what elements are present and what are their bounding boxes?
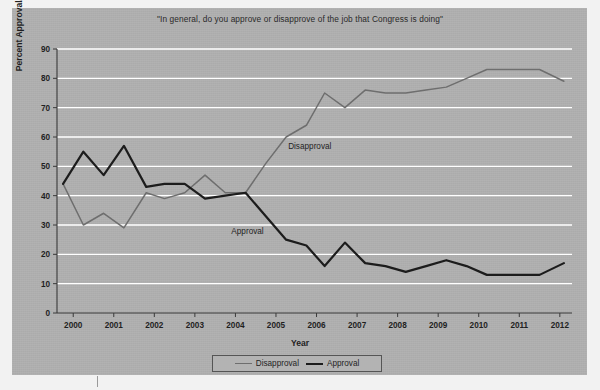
svg-text:2002: 2002 [145,321,164,330]
svg-text:2003: 2003 [186,321,205,330]
svg-text:2007: 2007 [348,321,367,330]
svg-text:2009: 2009 [429,321,448,330]
legend-item-approval: Approval [306,359,359,368]
plot-area: 0102030405060708090 20002001200220032004… [0,0,600,390]
svg-text:60: 60 [41,133,51,142]
svg-text:90: 90 [41,45,51,54]
annotation-approval: Approval [231,227,263,236]
svg-text:2005: 2005 [267,321,286,330]
svg-text:2006: 2006 [307,321,326,330]
svg-text:2010: 2010 [470,321,489,330]
series-line-approval [63,146,564,275]
svg-text:0: 0 [45,309,50,318]
svg-text:10: 10 [41,280,51,289]
legend-label-disapproval: Disapproval [256,359,299,368]
legend-item-disapproval: Disapproval [235,359,299,368]
legend-swatch-disapproval [235,363,252,364]
legend-swatch-approval [306,363,323,365]
legend-label-approval: Approval [327,359,359,368]
svg-text:20: 20 [41,250,51,259]
svg-text:80: 80 [41,74,51,83]
svg-text:40: 40 [41,192,51,201]
svg-text:2008: 2008 [389,321,408,330]
annotation-disapproval: Disapproval [288,142,331,151]
chart-screenshot: "In general, do you approve or disapprov… [0,0,600,390]
chart-legend: Disapproval Approval [212,355,382,372]
svg-text:2004: 2004 [226,321,245,330]
series-annotations: DisapprovalApproval [231,142,331,236]
svg-text:2001: 2001 [105,321,124,330]
svg-text:50: 50 [41,162,51,171]
svg-text:2000: 2000 [64,321,83,330]
svg-text:30: 30 [41,221,51,230]
x-axis-ticks: 2000200120022003200420052006200720082009… [64,313,569,330]
svg-text:2011: 2011 [510,321,528,330]
x-axis-label: Year [0,338,600,348]
data-series [63,70,564,275]
page-artifact-tick [97,376,98,387]
svg-text:2012: 2012 [551,321,570,330]
svg-text:70: 70 [41,104,51,113]
y-axis-ticks: 0102030405060708090 [41,45,57,318]
